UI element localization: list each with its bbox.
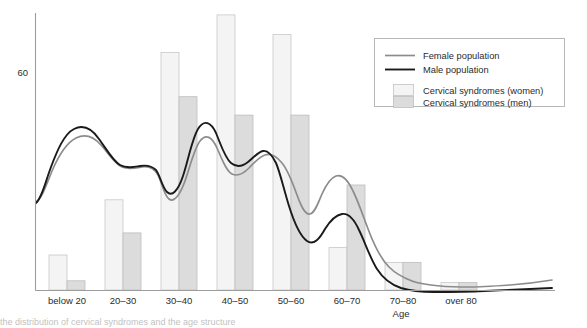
x-tick-label-70-80: 70–80 bbox=[390, 295, 416, 306]
x-tick-label-30-40: 30–40 bbox=[166, 295, 192, 306]
bar-men-20-30 bbox=[123, 233, 141, 290]
legend-label-female-population: Female population bbox=[423, 51, 500, 61]
x-tick-label-50-60: 50–60 bbox=[278, 295, 304, 306]
legend-label-male-population: Male population bbox=[423, 65, 489, 75]
legend-swatch-women-icon bbox=[394, 85, 414, 96]
x-tick-label-60-70: 60–70 bbox=[334, 295, 360, 306]
bar-men-30-40 bbox=[179, 97, 197, 290]
bar-group-40-50 bbox=[217, 15, 253, 290]
bar-group-30-40 bbox=[161, 52, 197, 290]
legend-swatch-men-icon bbox=[394, 97, 414, 108]
figure-caption: the distribution of cervical syndromes a… bbox=[0, 317, 587, 328]
age-distribution-chart: 60 below 20 20–30 30–40 40–50 50–60 60–7… bbox=[0, 0, 587, 328]
bar-men-below-20 bbox=[67, 281, 85, 290]
x-tick-label-40-50: 40–50 bbox=[222, 295, 248, 306]
y-tick-label-60: 60 bbox=[17, 67, 28, 78]
bar-group-below-20 bbox=[49, 255, 85, 290]
legend-label-cervical-women: Cervical syndromes (women) bbox=[423, 86, 543, 96]
x-tick-label-below-20: below 20 bbox=[48, 295, 86, 306]
chart-legend: Female population Male population Cervic… bbox=[375, 39, 565, 108]
legend-label-cervical-men: Cervical syndromes (men) bbox=[423, 98, 532, 108]
bar-women-20-30 bbox=[105, 200, 123, 290]
bar-women-60-70 bbox=[329, 248, 347, 290]
bar-group-60-70 bbox=[329, 185, 365, 290]
x-tick-label-over-80: over 80 bbox=[445, 295, 477, 306]
bar-women-below-20 bbox=[49, 255, 67, 290]
bar-group-50-60 bbox=[273, 34, 309, 290]
bar-group-20-30 bbox=[105, 200, 141, 290]
x-tick-label-20-30: 20–30 bbox=[110, 295, 136, 306]
bar-men-70-80 bbox=[403, 262, 421, 290]
bar-men-40-50 bbox=[235, 115, 253, 290]
bar-women-30-40 bbox=[161, 52, 179, 290]
chart-figure: 60 below 20 20–30 30–40 40–50 50–60 60–7… bbox=[0, 0, 587, 328]
